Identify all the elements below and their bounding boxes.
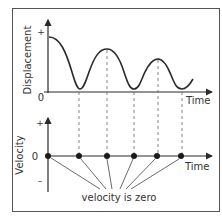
zero-label: 0 bbox=[32, 151, 38, 162]
annotation-pointers bbox=[51, 158, 179, 189]
displacement-curve bbox=[49, 37, 193, 89]
time-label-top: Time bbox=[185, 95, 210, 106]
origin-label: 0 bbox=[38, 92, 44, 103]
displacement-label: Displacement bbox=[22, 26, 33, 95]
annotation-label: velocity is zero bbox=[82, 192, 157, 203]
displacement-velocity-diagram: + 0 Displacement Time + 0 – Velocity Tim… bbox=[0, 0, 222, 219]
minus-label: – bbox=[38, 176, 43, 186]
frame bbox=[13, 9, 220, 212]
top-plus-label: + bbox=[37, 27, 45, 37]
time-label-bottom: Time bbox=[184, 161, 209, 172]
velocity-label: Velocity bbox=[14, 135, 25, 174]
bottom-plus-label: + bbox=[36, 118, 44, 128]
